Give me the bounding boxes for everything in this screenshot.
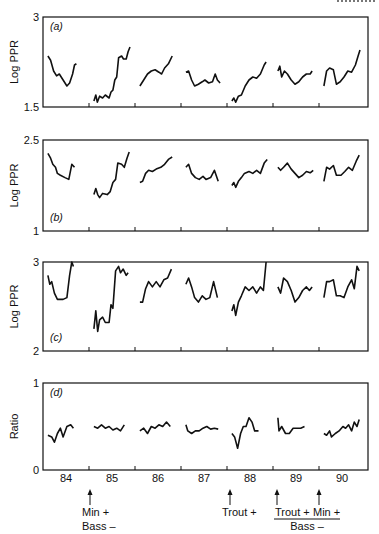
y-tick-top: 1 <box>33 377 39 389</box>
data-line-88 <box>232 418 259 449</box>
data-line-88 <box>232 159 267 187</box>
data-line-90 <box>324 50 360 86</box>
data-line-86 <box>140 157 172 183</box>
data-line-84 <box>48 153 75 179</box>
x-tick-label: 89 <box>290 472 302 484</box>
y-tick-top: 3 <box>33 256 39 268</box>
data-line-89 <box>278 278 312 302</box>
annotation-text: Bass – <box>82 520 117 532</box>
data-line-87 <box>186 164 218 181</box>
data-line-90 <box>324 266 359 297</box>
panel-label: (a) <box>50 20 63 32</box>
panel-frame-3 <box>43 262 368 351</box>
arrow-head-icon <box>228 489 233 495</box>
data-line-89 <box>278 66 312 84</box>
arrow-head-icon <box>275 489 280 495</box>
x-tick-label: 88 <box>244 472 256 484</box>
data-line-88 <box>232 262 266 315</box>
x-tick-label: 84 <box>60 472 72 484</box>
data-line-90 <box>324 420 359 437</box>
y-axis-label: Ratio <box>8 414 20 440</box>
y-tick-bottom: 1.5 <box>24 101 39 113</box>
x-tick-label: 90 <box>336 472 348 484</box>
panel-label: (b) <box>50 211 63 223</box>
annotation-text: Trout + <box>222 506 257 518</box>
y-tick-top: 3 <box>33 11 39 23</box>
arrow-head-icon <box>88 489 93 495</box>
data-line-87 <box>186 278 218 302</box>
y-axis-label: Log PPR <box>8 163 20 207</box>
y-tick-bottom: 1 <box>33 225 39 237</box>
data-line-86 <box>140 269 172 302</box>
figure: 31.5Log PPR(a)2.51Log PPR(b)32Log PPR(c)… <box>0 0 379 534</box>
annotation-text: Min + <box>82 506 109 518</box>
grouped-annotation-bottom: Bass – <box>290 520 325 532</box>
y-tick-bottom: 2 <box>33 345 39 357</box>
data-line-86 <box>140 56 172 86</box>
data-line-89 <box>278 418 305 434</box>
panel-frame-2 <box>43 140 368 231</box>
data-line-87 <box>186 425 218 434</box>
y-tick-bottom: 0 <box>33 464 39 476</box>
panel-label: (c) <box>50 331 62 343</box>
y-tick-top: 2.5 <box>24 134 39 146</box>
grouped-annotation-left: Trout + <box>275 506 310 518</box>
data-line-85 <box>94 47 130 102</box>
x-tick-label: 87 <box>198 472 210 484</box>
x-tick-label: 85 <box>106 472 118 484</box>
panel-frame-1 <box>43 17 368 107</box>
y-axis-label: Log PPR <box>8 284 20 328</box>
data-line-84 <box>48 425 74 442</box>
data-line-84 <box>48 56 77 86</box>
data-line-90 <box>324 155 359 181</box>
data-line-85 <box>94 425 124 431</box>
y-axis-label: Log PPR <box>8 40 20 84</box>
data-line-85 <box>94 152 129 198</box>
grouped-annotation-right: Min + <box>313 506 340 518</box>
x-tick-label: 86 <box>152 472 164 484</box>
data-line-84 <box>48 262 74 299</box>
data-line-89 <box>278 163 313 178</box>
data-line-86 <box>140 422 170 433</box>
data-line-88 <box>232 62 266 102</box>
arrow-head-icon <box>317 489 322 495</box>
data-line-85 <box>94 266 128 331</box>
data-line-87 <box>186 71 220 86</box>
panel-label: (d) <box>50 386 63 398</box>
